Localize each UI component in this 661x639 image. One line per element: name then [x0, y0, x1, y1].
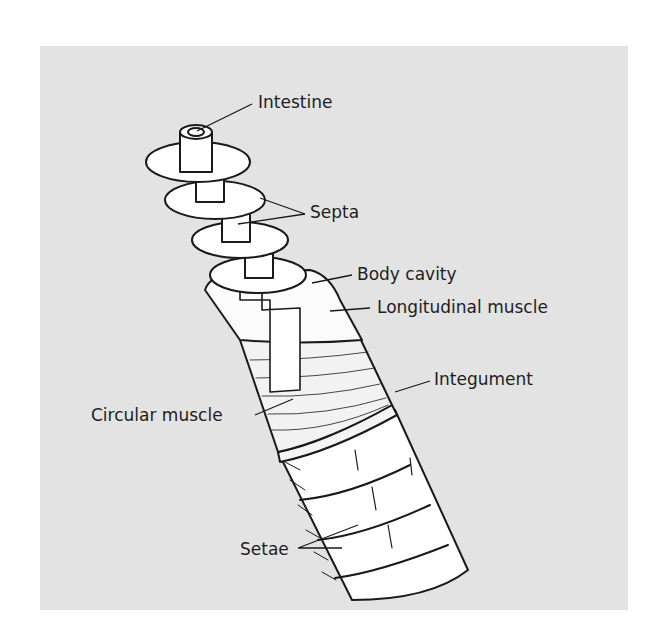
label-longitudinal-muscle: Longitudinal muscle: [377, 299, 548, 316]
label-body-cavity: Body cavity: [357, 266, 457, 283]
label-integument: Integument: [434, 371, 533, 388]
label-intestine: Intestine: [258, 94, 332, 111]
intestine-septa-stack: [146, 125, 306, 293]
leader-intestine: [197, 104, 252, 131]
leader-integument: [395, 381, 430, 392]
label-circular-muscle: Circular muscle: [91, 407, 223, 424]
label-septa: Septa: [310, 204, 359, 221]
label-setae: Setae: [240, 541, 289, 558]
